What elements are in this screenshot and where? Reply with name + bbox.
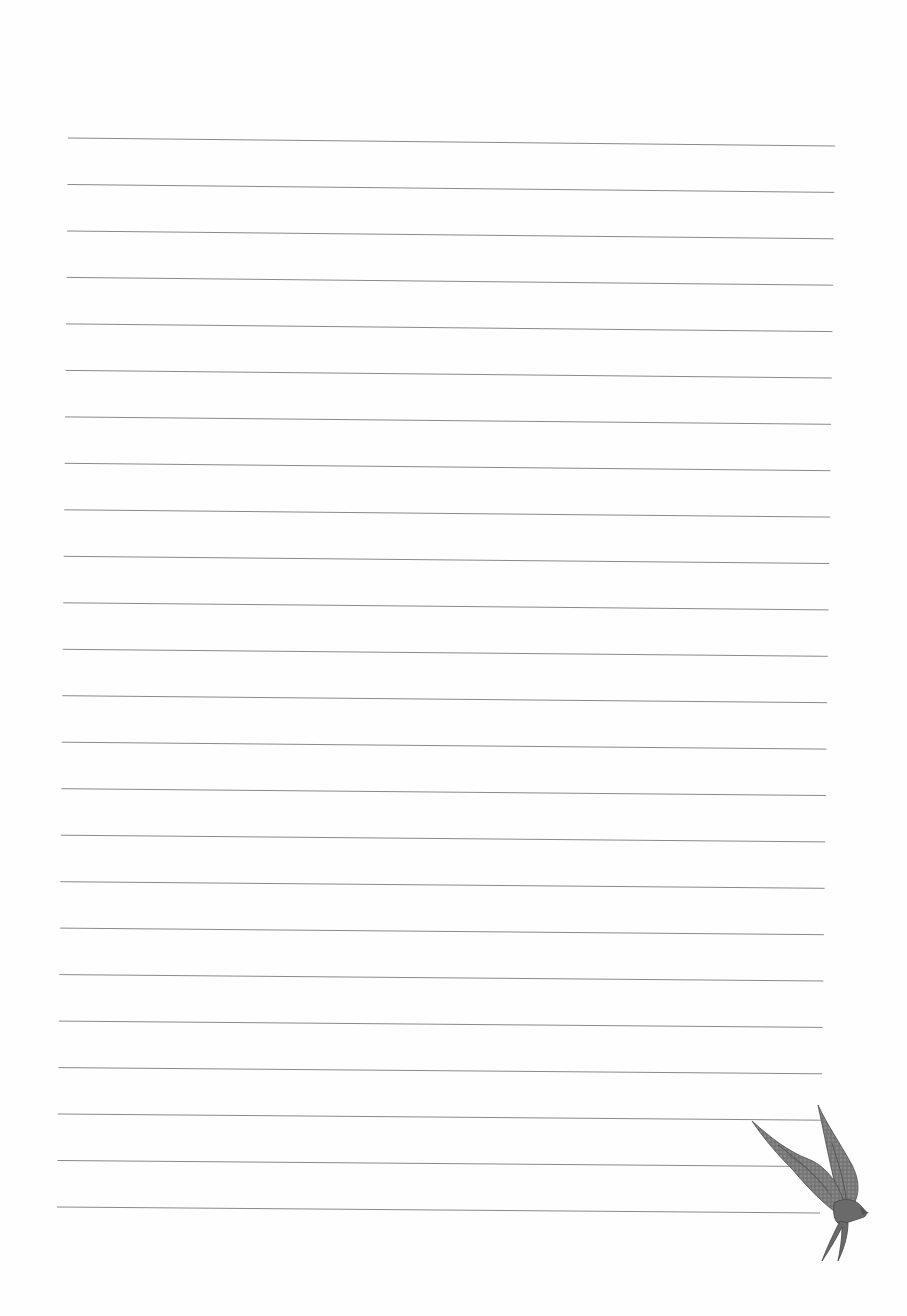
ruled-line <box>61 789 826 796</box>
ruled-line <box>68 185 835 193</box>
ruled-line <box>63 603 828 610</box>
ruled-line <box>59 1021 823 1027</box>
notebook-page <box>0 0 907 1316</box>
ruled-line <box>58 1068 822 1074</box>
ruled-line <box>64 556 829 563</box>
ruled-line <box>68 138 835 146</box>
ruled-line <box>66 324 832 332</box>
ruled-line <box>64 510 830 517</box>
ruled-line <box>59 975 823 981</box>
ruled-line <box>63 649 828 656</box>
ruled-line <box>58 1114 821 1120</box>
ruled-line <box>61 835 825 842</box>
ruled-line <box>67 277 833 285</box>
ruled-line <box>62 696 827 703</box>
ruled-line <box>58 1161 821 1167</box>
ruled-line <box>66 370 832 378</box>
ruled-line <box>57 1207 820 1213</box>
ruled-line <box>65 417 831 424</box>
swallow-bird-icon <box>748 1103 870 1263</box>
ruled-line <box>60 882 824 889</box>
ruled-line <box>65 463 831 470</box>
ruled-line <box>62 742 827 749</box>
ruled-line <box>60 928 824 935</box>
ruled-line <box>67 231 834 239</box>
